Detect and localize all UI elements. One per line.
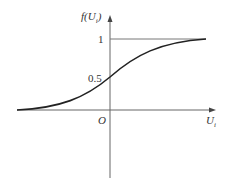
origin-label: O	[98, 115, 106, 126]
x-axis-label: Ui	[206, 115, 216, 129]
sigmoid-diagram: f(Ui) 1 0.5 O Ui	[0, 0, 233, 194]
plot-canvas	[0, 0, 233, 194]
sigmoid-curve	[17, 39, 206, 110]
tick-one: 1	[98, 34, 104, 45]
y-axis-label: f(Ui)	[81, 11, 101, 25]
tick-half: 0.5	[88, 73, 102, 84]
y-axis-arrow-icon	[108, 15, 113, 22]
x-axis-arrow-icon	[209, 108, 216, 113]
